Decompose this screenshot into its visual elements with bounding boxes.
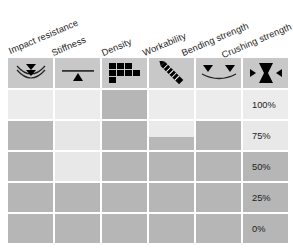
bending-beam-icon [200, 62, 238, 84]
cell-crushing-0 [243, 214, 288, 243]
cell-workability-50 [149, 152, 194, 181]
column-header-labels: Impact resistance Stiffness Density Work… [0, 0, 293, 58]
cell-density-75 [102, 121, 147, 150]
cell-stiffness-100 [55, 90, 100, 119]
cell-partial-fill [149, 137, 194, 150]
cell-impact-50 [8, 152, 53, 181]
property-comparison-matrix: Impact resistance Stiffness Density Work… [0, 0, 293, 252]
icon-cell-bending-strength [196, 58, 241, 88]
cell-workability-100 [149, 90, 194, 119]
cell-stiffness-0 [55, 214, 100, 243]
cell-density-50 [102, 152, 147, 181]
column-header-density: Density [100, 36, 133, 58]
property-icon-row [0, 58, 293, 88]
density-blocks-icon [108, 62, 142, 84]
icon-cell-impact-resistance [8, 58, 53, 88]
cell-impact-0 [8, 214, 53, 243]
cell-bending-50 [196, 152, 241, 181]
cell-stiffness-25 [55, 183, 100, 212]
icon-cell-stiffness [55, 58, 100, 88]
cell-stiffness-50 [55, 152, 100, 181]
cell-density-0 [102, 214, 147, 243]
icon-cell-density [102, 58, 147, 88]
column-header-workability: Workability [141, 31, 188, 58]
cell-impact-100 [8, 90, 53, 119]
column-header-stiffness: Stiffness [50, 35, 87, 58]
cell-workability-0 [149, 214, 194, 243]
cell-bending-0 [196, 214, 241, 243]
saw-rasp-icon [156, 61, 188, 85]
crushing-compression-icon [248, 61, 284, 85]
cell-impact-25 [8, 183, 53, 212]
row-label-50: 50% [252, 162, 271, 172]
cell-stiffness-75 [55, 121, 100, 150]
cell-impact-75 [8, 121, 53, 150]
row-label-75: 75% [252, 131, 271, 141]
cell-bending-25 [196, 183, 241, 212]
cell-workability-25 [149, 183, 194, 212]
cell-workability-75 [149, 121, 194, 150]
icon-cell-workability [149, 58, 194, 88]
icon-cell-crushing-strength [243, 58, 288, 88]
row-label-100: 100% [252, 100, 276, 110]
row-label-0: 0% [252, 224, 265, 234]
cell-density-100 [102, 90, 147, 119]
cell-bending-100 [196, 90, 241, 119]
beam-support-icon [60, 62, 96, 84]
matrix-grid: 100% 75% 50% 25% 0% [0, 90, 293, 252]
cell-density-25 [102, 183, 147, 212]
row-label-25: 25% [252, 193, 271, 203]
impact-arrow-icon [14, 62, 48, 84]
cell-bending-75 [196, 121, 241, 150]
